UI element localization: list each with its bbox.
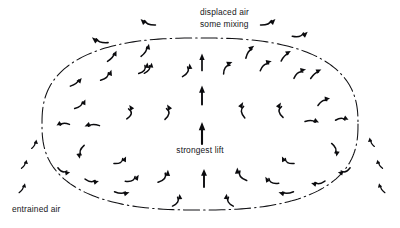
diagram-background bbox=[0, 0, 400, 228]
label-entrained-air: entrained air bbox=[12, 204, 61, 214]
thermal-diagram: displaced air some mixing strongest lift… bbox=[0, 0, 400, 228]
label-some-mixing: some mixing bbox=[200, 19, 249, 29]
thermal-diagram-page: displaced air some mixing strongest lift… bbox=[0, 0, 400, 228]
label-displaced-air: displaced air bbox=[200, 7, 249, 17]
label-strongest-lift: strongest lift bbox=[176, 145, 224, 155]
